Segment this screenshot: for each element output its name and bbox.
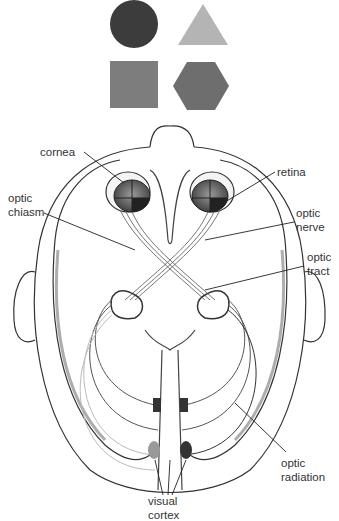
triangle-shape bbox=[178, 4, 228, 45]
hexagon-shape bbox=[173, 62, 229, 110]
label-optic-chiasm: optic chiasm bbox=[8, 191, 44, 219]
right-eye bbox=[190, 172, 234, 212]
label-visual-cortex-line1: visual bbox=[148, 494, 179, 508]
label-optic-chiasm-line2: chiasm bbox=[8, 205, 44, 219]
visual-cortex-spots bbox=[148, 398, 192, 459]
visual-pathway-diagram bbox=[0, 0, 339, 521]
square-shape bbox=[110, 61, 158, 108]
optic-radiations-light bbox=[80, 310, 155, 470]
label-optic-nerve-line1: optic bbox=[296, 206, 325, 220]
circle-shape bbox=[110, 0, 158, 48]
label-optic-radiation-line1: optic bbox=[281, 456, 325, 470]
frontal-lobes bbox=[150, 170, 190, 244]
label-optic-tract-line2: tract bbox=[307, 264, 331, 278]
label-optic-nerve-line2: nerve bbox=[296, 220, 325, 234]
left-eye bbox=[106, 172, 150, 212]
label-optic-radiation: optic radiation bbox=[281, 456, 325, 484]
label-visual-cortex-line2: cortex bbox=[148, 508, 179, 521]
shapes-group bbox=[110, 0, 229, 110]
label-optic-nerve: optic nerve bbox=[296, 206, 325, 234]
label-retina-text: retina bbox=[277, 165, 306, 179]
leader-lines bbox=[44, 152, 304, 495]
head-outline bbox=[14, 126, 325, 493]
label-visual-cortex: visual cortex bbox=[148, 494, 179, 521]
label-optic-radiation-line2: radiation bbox=[281, 470, 325, 484]
label-optic-chiasm-line1: optic bbox=[8, 191, 44, 205]
lgn bbox=[111, 291, 229, 319]
optic-radiations bbox=[90, 300, 256, 455]
optic-nerves bbox=[120, 210, 220, 300]
label-optic-tract: optic tract bbox=[307, 250, 331, 278]
label-cornea-text: cornea bbox=[40, 145, 75, 159]
label-cornea: cornea bbox=[40, 145, 75, 159]
label-optic-tract-line1: optic bbox=[307, 250, 331, 264]
label-retina: retina bbox=[277, 165, 306, 179]
